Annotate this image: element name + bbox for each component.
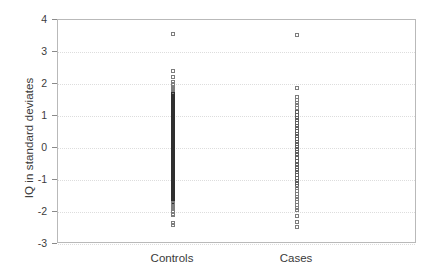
data-point bbox=[295, 220, 299, 224]
y-axis-tick-label: -2 bbox=[11, 205, 47, 217]
data-point bbox=[171, 75, 175, 79]
y-axis-tick-mark bbox=[52, 243, 57, 244]
data-point bbox=[171, 223, 175, 227]
x-axis-label-cases: Cases bbox=[236, 252, 356, 264]
gridline bbox=[58, 212, 415, 213]
data-point bbox=[171, 69, 175, 73]
y-axis-tick-label: 3 bbox=[11, 45, 47, 57]
gridline bbox=[58, 244, 415, 245]
y-axis-tick-label: 1 bbox=[11, 109, 47, 121]
gridline bbox=[58, 116, 415, 117]
y-axis-tick-label: 0 bbox=[11, 141, 47, 153]
gridline bbox=[58, 180, 415, 181]
gridline bbox=[58, 84, 415, 85]
data-point bbox=[295, 214, 299, 218]
y-axis-title: IQ in standard deviates bbox=[14, 0, 44, 276]
data-point bbox=[295, 33, 299, 37]
data-point bbox=[295, 86, 299, 90]
y-axis-tick-label: 4 bbox=[11, 13, 47, 25]
gridline bbox=[58, 52, 415, 53]
data-point bbox=[171, 213, 175, 217]
data-point bbox=[295, 225, 299, 229]
x-axis-label-controls: Controls bbox=[112, 252, 232, 264]
gridline bbox=[58, 148, 415, 149]
scatter-plot-figure: IQ in standard deviates 43210-1-2-3 Cont… bbox=[0, 0, 436, 276]
y-axis-tick-label: -1 bbox=[11, 173, 47, 185]
y-axis-tick-label: 2 bbox=[11, 77, 47, 89]
data-point bbox=[171, 32, 175, 36]
plot-area bbox=[57, 19, 416, 243]
data-point bbox=[295, 208, 299, 212]
y-axis-tick-label: -3 bbox=[11, 237, 47, 249]
